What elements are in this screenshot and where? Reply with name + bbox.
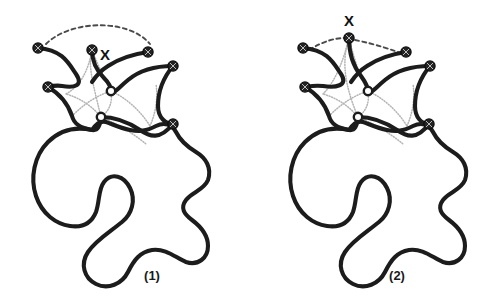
figure-root: X(1) X(2) [0, 0, 481, 302]
panel-2-dotted-link-3 [329, 91, 368, 116]
panel-2-blob-curve [290, 121, 466, 286]
panel-1-node-left-mid [43, 82, 53, 92]
panel-1-node-hollow-upper-body [107, 87, 115, 95]
panel-2-node-right-lower [424, 119, 434, 129]
panel-2-node-hollow-upper-body [364, 87, 372, 95]
panel-1-dashed-arc [46, 25, 150, 44]
panel-1-blob-curve [33, 121, 209, 286]
panel-1-node-hollow-lower [97, 113, 105, 121]
panel-1-node-x [87, 45, 97, 55]
panel-1-node-left-top [33, 43, 43, 53]
panel-1-node-right-top [143, 47, 153, 57]
panel-2-caption: (2) [389, 268, 405, 283]
panel-2-x-marker-label: X [344, 12, 354, 29]
panel-1-caption: (1) [144, 268, 160, 283]
panel-1-strand-1 [38, 48, 79, 87]
panel-1-node-hollow-upper [107, 87, 115, 95]
panel-1-blob-curve-group [33, 121, 209, 286]
panel-1-dashed-arc-group [46, 25, 150, 44]
panel-2-node-left-mid [300, 82, 310, 92]
panel-1-dotted-link-3 [72, 91, 111, 116]
panel-2-node-hollow-upper [364, 87, 372, 95]
panel-2: X(2) [241, 0, 481, 302]
panel-1-node-far-right [168, 61, 178, 71]
panel-1: X(1) [0, 0, 240, 302]
panel-2-dotted-link-8 [407, 84, 414, 126]
panel-1-x-marker-label: X [100, 46, 110, 63]
panel-1-strand-5 [158, 66, 173, 124]
panel-2-strand-5 [415, 66, 430, 124]
panel-2-node-far-right [425, 61, 435, 71]
panel-1-dotted-link-8 [150, 84, 157, 126]
panel-2-canvas: X(2) [241, 0, 481, 302]
panel-1-node-right-lower [168, 119, 178, 129]
panel-2-blob-curve-group [290, 121, 466, 286]
panel-2-node-x [344, 33, 354, 43]
panel-2-node-right-top [401, 47, 411, 57]
panel-2-node-left-top [298, 43, 308, 53]
panel-1-canvas: X(1) [0, 0, 240, 302]
panel-2-strand-1 [303, 48, 343, 87]
panel-2-node-hollow-lower [354, 113, 362, 121]
panel-2-node-hollow-lower-body [354, 113, 362, 121]
panel-1-node-hollow-lower-body [97, 113, 105, 121]
panel-2-strand-3 [351, 52, 406, 82]
